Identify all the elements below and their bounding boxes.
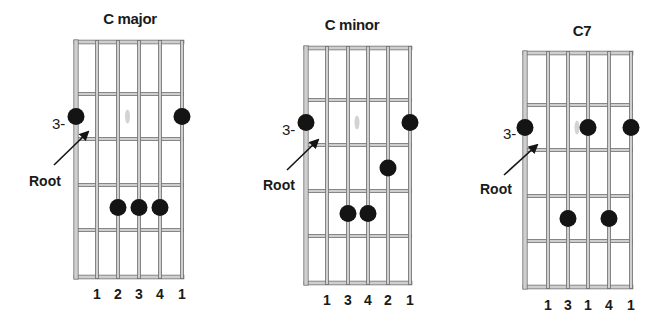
chord-diagram-c-minor: C minor3-Root13421 <box>263 16 419 308</box>
finger-dot <box>68 108 85 125</box>
chord-title: C minor <box>325 16 380 33</box>
root-label: Root <box>29 173 61 189</box>
finger-number: 1 <box>584 297 592 313</box>
finger-dot <box>131 199 148 216</box>
root-arrow-icon <box>287 140 318 170</box>
finger-number: 4 <box>364 292 372 308</box>
finger-dot <box>152 199 169 216</box>
finger-number: 1 <box>93 286 101 302</box>
chord-title: C7 <box>573 22 592 39</box>
smudge-mark <box>355 116 360 130</box>
finger-dot <box>360 205 377 222</box>
finger-number: 2 <box>384 292 392 308</box>
fret-number-label: 3- <box>503 125 516 142</box>
finger-dot <box>110 199 127 216</box>
root-label: Root <box>263 177 295 193</box>
fretboard-grid <box>525 53 631 287</box>
finger-number: 2 <box>114 286 122 302</box>
fretboard-grid <box>76 42 182 277</box>
finger-dot <box>380 160 397 177</box>
fret-number-label: 3- <box>52 115 65 132</box>
finger-dot <box>517 119 534 136</box>
finger-number: 4 <box>605 297 613 313</box>
finger-number: 1 <box>627 297 635 313</box>
finger-dot <box>601 210 618 227</box>
finger-dot <box>560 210 577 227</box>
smudge-mark <box>125 110 130 124</box>
smudge-mark <box>575 121 580 135</box>
finger-number: 4 <box>156 286 164 302</box>
root-arrow-icon <box>504 145 537 175</box>
chord-figure: C major3-Root12341C minor3-Root13421C73-… <box>0 0 660 326</box>
finger-number: 1 <box>178 286 186 302</box>
finger-dot <box>402 114 419 131</box>
finger-dot <box>623 119 640 136</box>
finger-number: 1 <box>323 292 331 308</box>
fret-number-label: 3- <box>282 121 295 138</box>
finger-dot <box>340 205 357 222</box>
finger-dot <box>580 119 597 136</box>
finger-dot <box>298 114 315 131</box>
finger-dot <box>174 108 191 125</box>
chord-diagram-c7: C73-Root13141 <box>480 22 640 313</box>
finger-number: 1 <box>406 292 414 308</box>
chord-diagram-c-major: C major3-Root12341 <box>29 10 191 302</box>
root-arrow-icon <box>54 132 88 165</box>
finger-number: 3 <box>344 292 352 308</box>
root-label: Root <box>480 181 512 197</box>
chord-title: C major <box>103 10 157 27</box>
finger-number: 3 <box>135 286 143 302</box>
finger-number: 3 <box>564 297 572 313</box>
finger-number: 1 <box>544 297 552 313</box>
